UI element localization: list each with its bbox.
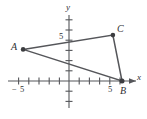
point-label-a: A bbox=[11, 42, 17, 52]
point-label-c: C bbox=[117, 24, 124, 34]
point-label-b: B bbox=[120, 86, 126, 96]
triangle-abc-path bbox=[23, 35, 122, 81]
vertex-dot-b bbox=[120, 79, 125, 84]
x-tick-label-5: 5 bbox=[108, 85, 112, 94]
vertex-dot-c bbox=[111, 33, 116, 38]
plot-canvas bbox=[0, 0, 147, 119]
x-axis-arrow-icon bbox=[129, 78, 136, 84]
x-axis-label: x bbox=[137, 73, 141, 82]
y-tick-label-5: 5 bbox=[59, 32, 63, 41]
vertex-dot-a bbox=[21, 47, 26, 52]
coordinate-plane-figure: y x 5 5 − 5 A B C bbox=[0, 0, 147, 119]
y-axis-label: y bbox=[66, 3, 70, 12]
x-tick-label-neg-5: − 5 bbox=[12, 85, 25, 94]
